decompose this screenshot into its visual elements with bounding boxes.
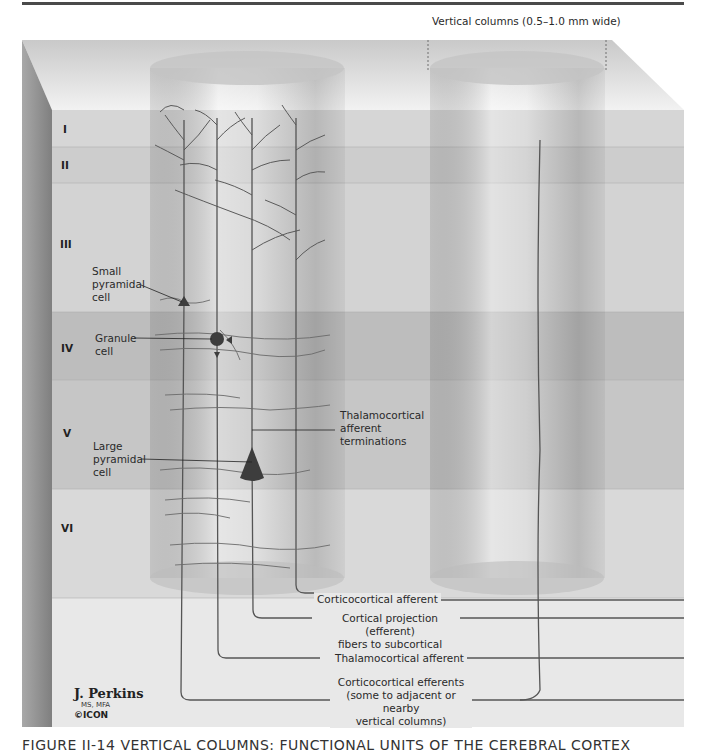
layer-label-VI: VI [61,522,73,534]
thalamocortical-afferent-label: Thalamocortical afferent [332,652,467,665]
publisher-logo: ©ICON [74,710,108,720]
artist-degrees: MS, MFA [81,701,110,709]
large-pyramidal-cell-label: Large pyramidal cell [93,440,146,479]
vertical-column-right [430,51,605,595]
small-pyramidal-cell-label: Small pyramidal cell [92,265,145,304]
figure-caption: FIGURE II-14 VERTICAL COLUMNS: FUNCTIONA… [22,737,631,753]
corticocortical-afferent-label: Corticocortical afferent [314,593,441,606]
vertical-columns-label: Vertical columns (0.5–1.0 mm wide) [432,15,621,28]
granule-cell-label: Granule cell [95,332,137,358]
granule-cell-body [210,332,224,346]
layer-label-V: V [63,427,71,439]
layer-label-IV: IV [61,342,73,354]
layer-label-III: III [60,238,72,250]
thalamocortical-terminations-label: Thalamocortical afferent terminations [340,409,424,448]
side-face [22,40,52,727]
artist-name: J. Perkins [74,686,143,701]
corticocortical-efferents-label: Corticocortical efferents (some to adjac… [330,676,472,728]
layer-label-I: I [63,123,67,135]
layer-label-II: II [61,159,69,171]
